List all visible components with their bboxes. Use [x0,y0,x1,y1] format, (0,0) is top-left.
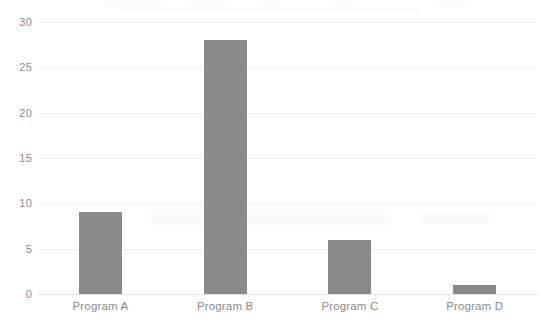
x-axis-tick-label: Program A [73,300,129,312]
bar-chart: 051015202530 Program AProgram BProgram C… [0,0,543,329]
gridline [38,22,537,23]
y-axis-tick-label: 30 [2,16,32,28]
y-axis-tick-label: 10 [2,197,32,209]
bar [453,285,496,294]
chart-title [0,0,543,14]
axis-line-zero [38,294,537,295]
bar [79,212,122,294]
plot-area: 051015202530 [38,22,537,294]
y-axis-tick-label: 0 [2,288,32,300]
bar [328,240,371,294]
x-axis-tick-label: Program D [446,300,503,312]
x-axis-tick-label: Program B [197,300,253,312]
y-axis-tick-label: 25 [2,61,32,73]
y-axis-tick-label: 5 [2,243,32,255]
bar [204,40,247,294]
y-axis-tick-label: 15 [2,152,32,164]
gridline [38,203,537,204]
y-axis-tick-label: 20 [2,107,32,119]
gridline [38,158,537,159]
x-axis-tick-label: Program C [321,300,378,312]
gridline [38,67,537,68]
gridline [38,113,537,114]
